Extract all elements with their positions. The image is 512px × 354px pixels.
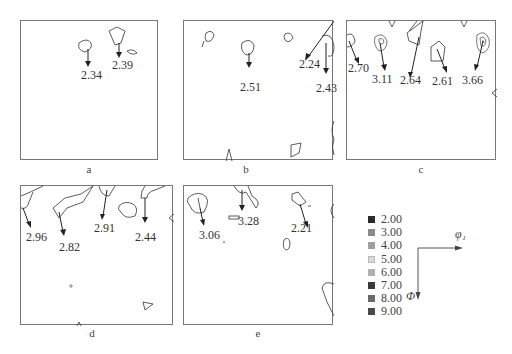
value-label: 2.21 [291, 222, 312, 234]
value-label: 2.96 [26, 231, 47, 243]
value-label: 3.66 [462, 74, 483, 86]
panel-a: 2.34 2.39 [20, 20, 158, 160]
panel-caption-e: e [248, 327, 268, 339]
legend-swatch [368, 269, 375, 276]
value-label: 2.51 [240, 81, 261, 93]
value-label: 2.61 [432, 75, 453, 87]
legend-item: 3.00 [368, 226, 402, 239]
value-label: 2.24 [299, 58, 320, 70]
panel-caption-b: b [236, 163, 256, 175]
legend-item: 2.00 [368, 213, 402, 226]
legend-swatch [368, 295, 375, 302]
panel-caption-d: d [82, 327, 102, 339]
legend-swatch [368, 256, 375, 263]
axis-label-phi: Φ [406, 289, 415, 304]
panel-caption-a: a [79, 163, 99, 175]
contour-plot-a [21, 21, 159, 161]
value-label: 2.34 [81, 69, 102, 81]
contour-plot-c [347, 21, 497, 161]
legend-item: 9.00 [368, 305, 402, 318]
legend: 2.00 3.00 4.00 5.00 6.00 7.00 8.00 9.00 [368, 213, 402, 319]
legend-swatch [368, 242, 375, 249]
legend-item: 4.00 [368, 239, 402, 252]
value-label: 2.44 [135, 231, 156, 243]
legend-item: 8.00 [368, 292, 402, 305]
value-label: 2.91 [94, 222, 115, 234]
value-label: 2.82 [59, 241, 80, 253]
value-label: 3.11 [372, 73, 393, 85]
value-label: 2.39 [112, 59, 133, 71]
value-label: 2.70 [348, 62, 369, 74]
legend-item: 7.00 [368, 279, 402, 292]
legend-swatch [368, 216, 375, 223]
panel-b: 2.51 2.24 2.43 [183, 20, 333, 160]
contour-plot-e [184, 186, 334, 326]
contour-plot-d [21, 186, 174, 326]
legend-item: 6.00 [368, 266, 402, 279]
legend-swatch [368, 229, 375, 236]
panel-caption-c: c [411, 163, 431, 175]
euler-axes: φ₁ Φ [415, 220, 512, 320]
legend-swatch [368, 308, 375, 315]
value-label: 3.06 [199, 229, 220, 241]
panel-e: 3.06 3.28 2.21 [183, 185, 333, 325]
panel-c: 2.70 3.11 2.64 2.61 3.66 [346, 20, 496, 160]
legend-item: 5.00 [368, 253, 402, 266]
axis-label-phi1: φ₁ [455, 227, 466, 242]
panel-d: 2.96 2.82 2.91 2.44 [20, 185, 173, 325]
value-label: 2.43 [316, 82, 337, 94]
legend-label: 9.00 [381, 304, 402, 319]
value-label: 3.28 [238, 215, 259, 227]
value-label: 2.64 [400, 74, 421, 86]
legend-swatch [368, 282, 375, 289]
